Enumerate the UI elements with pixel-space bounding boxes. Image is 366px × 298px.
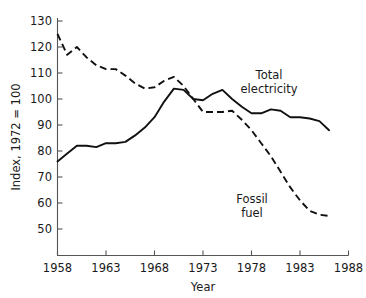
y-tick-label-130: 130	[30, 14, 52, 28]
total-electricity-label-line1: Total	[255, 68, 283, 82]
annotation-fossil-fuel: Fossil fuel	[236, 192, 268, 220]
axis-lines	[58, 18, 349, 256]
fossil-fuel-label-line2: fuel	[241, 206, 263, 220]
series-line-fossil-fuel	[58, 34, 330, 216]
x-tick-label-1958: 1958	[43, 261, 72, 275]
axes-frame	[58, 18, 349, 256]
x-tick-label-1968: 1968	[140, 261, 169, 275]
total-electricity-label-line2: electricity	[241, 82, 298, 96]
y-tick-label-50: 50	[37, 222, 52, 236]
chart-figure: 130 120 110 100 90 80 70 60 50 1958 1963…	[0, 0, 366, 298]
y-tick-labels: 130 120 110 100 90 80 70 60 50	[30, 14, 52, 236]
x-tick-marks	[58, 251, 349, 256]
y-tick-label-120: 120	[30, 40, 52, 54]
x-tick-label-1983: 1983	[285, 261, 314, 275]
x-tick-label-1963: 1963	[91, 261, 120, 275]
x-axis-title: Year	[190, 280, 216, 294]
y-tick-label-60: 60	[37, 196, 52, 210]
y-tick-label-80: 80	[37, 144, 52, 158]
x-tick-label-1973: 1973	[188, 261, 217, 275]
y-tick-label-110: 110	[30, 66, 52, 80]
y-tick-label-90: 90	[37, 118, 52, 132]
y-tick-label-100: 100	[30, 92, 52, 106]
y-tick-label-70: 70	[37, 170, 52, 184]
line-chart: 130 120 110 100 90 80 70 60 50 1958 1963…	[0, 0, 366, 298]
y-axis-title: Index, 1972 = 100	[9, 83, 23, 190]
series-line-total-electricity	[58, 89, 330, 162]
annotation-total-electricity: Total electricity	[241, 68, 298, 96]
x-tick-label-1978: 1978	[237, 261, 266, 275]
x-tick-labels: 1958 1963 1968 1973 1978 1983 1988	[43, 261, 363, 275]
x-tick-label-1988: 1988	[334, 261, 363, 275]
fossil-fuel-label-line1: Fossil	[236, 192, 268, 206]
y-tick-marks	[58, 21, 63, 229]
